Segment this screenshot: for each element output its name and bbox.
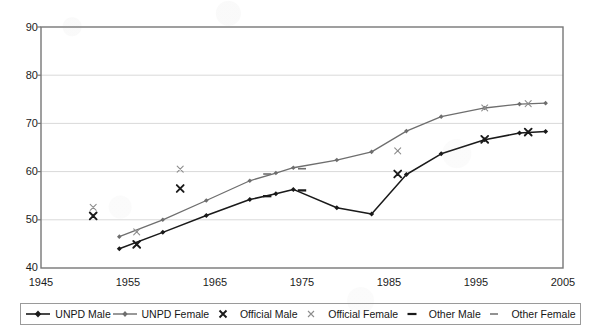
dash-bold-icon (399, 308, 425, 320)
legend-label: Official Female (328, 308, 398, 320)
plot-area (0, 0, 601, 334)
legend-label: Official Male (240, 308, 298, 320)
legend-label: Other Male (429, 308, 481, 320)
legend-item-official-male[interactable]: Official Male (210, 308, 298, 320)
line-diamond-gray-icon (112, 308, 138, 320)
chart-legend: UNPD Male UNPD Female Official Male Offi… (20, 303, 581, 325)
legend-item-other-male[interactable]: Other Male (399, 308, 481, 320)
legend-label: UNPD Female (142, 308, 210, 320)
x-light-icon (298, 308, 324, 320)
legend-item-official-female[interactable]: Official Female (298, 308, 398, 320)
legend-label: Other Female (511, 308, 575, 320)
x-bold-icon (210, 308, 236, 320)
legend-item-unpd-female[interactable]: UNPD Female (112, 308, 210, 320)
line-diamond-dark-icon (25, 308, 51, 320)
legend-label: UNPD Male (55, 308, 110, 320)
life-expectancy-line-chart: 90 80 70 60 50 40 1945 1955 1965 1975 19… (0, 0, 601, 334)
series-official-female (90, 101, 531, 235)
dash-light-icon (481, 308, 507, 320)
legend-item-unpd-male[interactable]: UNPD Male (25, 308, 110, 320)
legend-item-other-female[interactable]: Other Female (481, 308, 575, 320)
